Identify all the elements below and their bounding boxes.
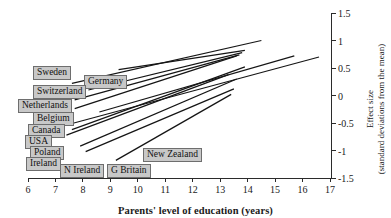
y-tick-label: 0: [338, 90, 343, 101]
y-axis-title-line2: (standard deviations from the mean): [376, 44, 387, 174]
x-axis-title: Parents' level of education (years): [0, 205, 391, 216]
x-tick-label: 7: [53, 184, 58, 195]
x-tick-label: 13: [215, 184, 225, 195]
x-tick-label: 17: [325, 184, 335, 195]
x-tick-label: 11: [160, 184, 170, 195]
y-axis-title: Effect size (standard deviations from th…: [361, 0, 391, 218]
x-tick-label: 9: [108, 184, 113, 195]
x-tick-label: 6: [26, 184, 31, 195]
country-label-sweden: Sweden: [33, 66, 71, 80]
y-tick-label: -1: [338, 145, 346, 156]
country-label-switzerland: Switzerland: [33, 85, 86, 99]
trend-line-group: [64, 41, 319, 161]
country-label-netherlands: Netherlands: [18, 99, 72, 113]
x-tick-label: 10: [133, 184, 143, 195]
y-tick-label: -0.5: [338, 118, 354, 129]
country-label-ireland: Ireland: [26, 157, 61, 171]
country-label-g-britain: G Britain: [107, 164, 151, 178]
x-tick-label: 16: [298, 184, 308, 195]
country-label-germany: Germany: [84, 75, 127, 89]
x-tick-label: 15: [270, 184, 280, 195]
y-tick-label: 1.5: [338, 8, 351, 19]
y-tick-label: -1.5: [338, 173, 354, 184]
y-tick-label: 0.5: [338, 63, 351, 74]
chart-container: 67891011121314151617 -1.5-1-0.500.511.5 …: [0, 0, 391, 218]
y-axis-title-line1: Effect size: [365, 44, 376, 174]
country-label-n-ireland: N Ireland: [60, 164, 104, 178]
y-tick-label: 1: [338, 35, 343, 46]
x-tick-label: 14: [243, 184, 253, 195]
x-tick-label: 12: [188, 184, 198, 195]
country-label-new-zealand: New Zealand: [143, 148, 202, 162]
x-tick-label: 8: [80, 184, 85, 195]
